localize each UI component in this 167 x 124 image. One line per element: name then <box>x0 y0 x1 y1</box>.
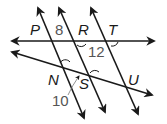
angle-arc-S <box>90 70 99 73</box>
label-N: N <box>48 71 59 88</box>
angle-label-8: 8 <box>55 21 63 38</box>
label-R: R <box>78 21 89 38</box>
label-T: T <box>108 21 119 38</box>
angle-arc-R <box>77 44 86 47</box>
label-U: U <box>128 71 139 88</box>
label-S: S <box>79 75 89 92</box>
angle-label-12: 12 <box>88 43 105 60</box>
geometry-diagram: P R T N S U 8 12 10 <box>0 0 167 124</box>
angle-arc-T <box>111 42 118 46</box>
angle-label-10: 10 <box>52 92 69 109</box>
label-P: P <box>30 21 40 38</box>
